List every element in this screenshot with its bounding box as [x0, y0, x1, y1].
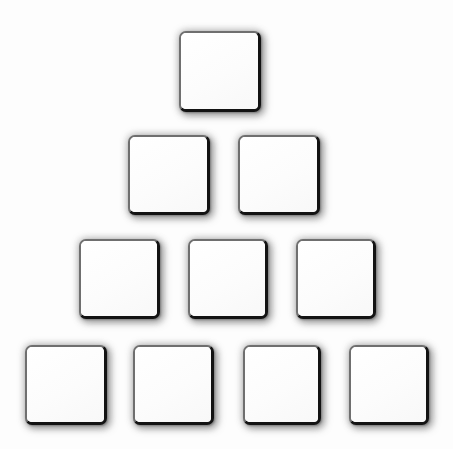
- square-tile[interactable]: [25, 345, 107, 425]
- square-tile[interactable]: [188, 239, 268, 319]
- pyramid-canvas: [0, 0, 453, 449]
- square-tile[interactable]: [243, 345, 321, 425]
- square-tile[interactable]: [79, 239, 160, 319]
- square-tile[interactable]: [128, 135, 210, 215]
- square-tile[interactable]: [179, 31, 261, 112]
- square-tile[interactable]: [349, 345, 429, 425]
- square-tile[interactable]: [296, 239, 376, 319]
- square-tile[interactable]: [133, 345, 214, 425]
- square-tile[interactable]: [238, 135, 320, 215]
